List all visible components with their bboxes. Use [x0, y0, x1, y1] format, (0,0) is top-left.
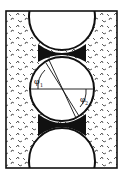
- phi2-subscript: 2: [85, 100, 88, 106]
- phi1-subscript: 1: [40, 82, 43, 88]
- sintering-neck-diagram: φ 1 φ 2: [0, 0, 124, 179]
